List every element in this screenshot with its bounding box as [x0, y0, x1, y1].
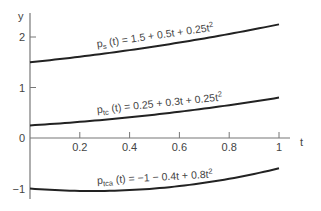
- y-axis-label: y: [18, 10, 24, 22]
- chart: y t 210−1 0.20.40.60.81 ps (t) = 1.5 + 0…: [0, 0, 321, 211]
- y-ticks: 210−1: [12, 31, 36, 195]
- x-tick-label: 0.2: [72, 141, 87, 153]
- x-tick-label: 0.6: [172, 141, 187, 153]
- y-tick-label: −1: [12, 183, 25, 195]
- x-axis-label: t: [300, 136, 303, 148]
- y-tick-label: 2: [19, 31, 25, 43]
- y-tick-label: 1: [19, 82, 25, 94]
- y-tick-label: 0: [19, 132, 25, 144]
- x-tick-label: 0.4: [122, 141, 137, 153]
- x-ticks: 0.20.40.60.81: [72, 132, 282, 153]
- x-tick-label: 1: [276, 141, 282, 153]
- curve-label-tca: ptca (t) = −1 − 0.4t + 0.8t2: [97, 167, 213, 189]
- x-tick-label: 0.8: [222, 141, 237, 153]
